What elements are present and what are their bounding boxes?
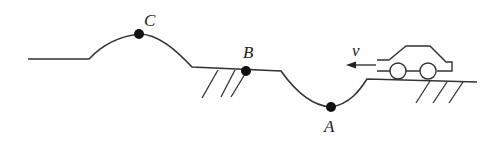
label-c: C [144, 11, 156, 30]
diagram-canvas: C B A v [0, 0, 490, 162]
label-a: A [323, 117, 335, 136]
point-c-dot [134, 29, 144, 39]
track-diagram: C B A v [0, 0, 490, 162]
point-a-dot [326, 102, 336, 112]
ground-hatch-right [416, 81, 463, 103]
car-body [377, 46, 452, 71]
car-icon [377, 46, 452, 79]
ground-hatch-middle [202, 70, 245, 98]
label-velocity: v [352, 41, 360, 60]
car-front-wheel [420, 63, 436, 79]
point-b-dot [241, 66, 251, 76]
car-rear-wheel [390, 63, 406, 79]
label-b: B [243, 43, 254, 62]
velocity-arrow-icon [346, 62, 376, 69]
